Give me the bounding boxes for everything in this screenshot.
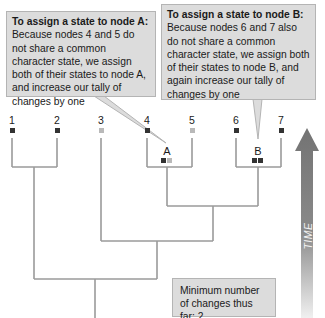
node-a-state-1 bbox=[161, 158, 166, 163]
leaf-label-6: 6 bbox=[229, 114, 243, 126]
node-b-state-2 bbox=[258, 158, 263, 163]
callout-node-b: To assign a state to node B: Because nod… bbox=[161, 4, 316, 100]
leaf-state-1 bbox=[10, 128, 15, 133]
min-changes-box: Minimum number of changes thus far: 2 bbox=[172, 278, 276, 317]
callout-b-pointer bbox=[253, 99, 262, 139]
node-label-b: B bbox=[251, 145, 265, 157]
node-label-a: A bbox=[160, 145, 174, 157]
leaf-state-3 bbox=[99, 128, 104, 133]
time-axis-label: TIME bbox=[302, 221, 314, 251]
leaf-label-3: 3 bbox=[94, 114, 108, 126]
node-b-state-1 bbox=[252, 158, 257, 163]
leaf-label-4: 4 bbox=[140, 114, 154, 126]
callout-node-a-body: Because nodes 4 and 5 do not share a com… bbox=[12, 29, 146, 106]
callout-node-b-title: To assign a state to node B: bbox=[167, 8, 310, 21]
callout-node-b-body: Because nodes 6 and 7 also do not share … bbox=[167, 22, 310, 99]
leaf-state-2 bbox=[55, 128, 60, 133]
leaf-label-5: 5 bbox=[185, 114, 199, 126]
callout-node-a: To assign a state to node A: Because nod… bbox=[6, 11, 156, 97]
leaf-state-5 bbox=[190, 128, 195, 133]
leaf-state-7 bbox=[279, 128, 284, 133]
leaf-label-2: 2 bbox=[50, 114, 64, 126]
leaf-state-6 bbox=[234, 128, 239, 133]
leaf-label-1: 1 bbox=[5, 114, 19, 126]
leaf-state-4 bbox=[145, 128, 150, 133]
node-a-state-2 bbox=[167, 158, 172, 163]
callout-node-a-title: To assign a state to node A: bbox=[12, 15, 150, 28]
leaf-label-7: 7 bbox=[274, 114, 288, 126]
